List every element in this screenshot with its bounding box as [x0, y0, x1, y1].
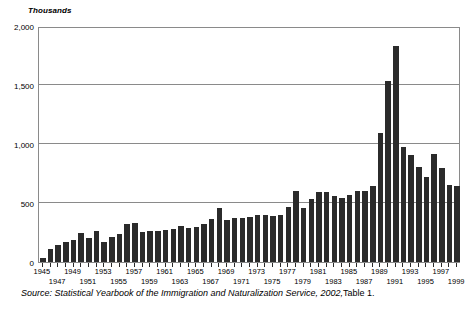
x-axis-tick-label: 1995 — [417, 277, 434, 286]
bar — [301, 208, 307, 262]
x-axis-tick-label: 1991 — [386, 277, 403, 286]
bar — [147, 231, 153, 262]
bar — [378, 133, 384, 262]
bar — [309, 199, 315, 262]
bar — [132, 223, 138, 262]
bar — [171, 229, 177, 263]
bar — [293, 191, 299, 262]
bar — [408, 155, 414, 262]
bar — [401, 147, 407, 262]
bar — [332, 196, 338, 262]
bar — [385, 81, 391, 262]
bar — [40, 258, 46, 262]
bar — [447, 185, 453, 262]
bar — [194, 227, 200, 262]
source-note-plain-part: Table 1. — [343, 288, 375, 298]
x-axis-tick-label: 1997 — [432, 267, 449, 276]
x-axis-tick-label: 1949 — [64, 267, 81, 276]
bar — [124, 224, 130, 262]
bar — [247, 217, 253, 262]
bar — [339, 198, 345, 262]
y-axis-tick-labels: 05001,0001,5002,000 — [0, 27, 34, 263]
bar — [201, 224, 207, 262]
x-axis-tick-label: 1951 — [80, 277, 97, 286]
x-axis-tick-label: 1947 — [49, 277, 66, 286]
x-axis-tick-label: 1965 — [187, 267, 204, 276]
bar — [78, 233, 84, 262]
x-axis-tick-label: 1989 — [371, 267, 388, 276]
x-axis-tick-label: 1987 — [356, 277, 373, 286]
bar — [270, 216, 276, 262]
bar — [416, 167, 422, 262]
bar — [140, 232, 146, 262]
x-axis-tick-label: 1963 — [172, 277, 189, 286]
bar — [155, 231, 161, 262]
bar — [55, 245, 61, 262]
bars-layer — [39, 28, 459, 262]
bar — [232, 218, 238, 262]
bar — [255, 215, 261, 262]
x-axis-tick-labels: 1945194719491951195319551957195919611963… — [38, 266, 462, 288]
bar — [163, 230, 169, 262]
y-axis-tick-label: 1,000 — [14, 141, 34, 150]
bar — [263, 215, 269, 262]
x-axis-tick-label: 1985 — [340, 267, 357, 276]
bar — [454, 186, 460, 262]
immigration-bar-chart-figure: Thousands 05001,0001,5002,000 1945194719… — [0, 0, 469, 309]
bar — [324, 192, 330, 262]
x-axis-tick-label: 1953 — [95, 267, 112, 276]
y-axis-unit-label: Thousands — [28, 6, 72, 15]
x-axis-tick-label: 1977 — [279, 267, 296, 276]
bar — [109, 237, 115, 262]
y-axis-tick-label: 2,000 — [14, 23, 34, 32]
x-axis-tick-label: 1993 — [402, 267, 419, 276]
bar — [278, 215, 284, 262]
x-axis-tick-label: 1959 — [141, 277, 158, 286]
source-note: Source: Statistical Yearbook of the Immi… — [21, 288, 375, 298]
x-axis-tick-label: 1961 — [156, 267, 173, 276]
bar — [86, 238, 92, 262]
x-axis-tick-label: 1957 — [126, 267, 143, 276]
bar — [424, 177, 430, 262]
bar — [240, 218, 246, 262]
bar — [224, 220, 230, 262]
bar — [370, 186, 376, 262]
y-axis-tick-label: 1,500 — [14, 82, 34, 91]
x-axis-tick-label: 1971 — [233, 277, 250, 286]
bar — [63, 242, 69, 262]
bar — [347, 195, 353, 262]
bar — [393, 46, 399, 262]
x-axis-tick-label: 1999 — [448, 277, 465, 286]
x-axis-tick-label: 1973 — [248, 267, 265, 276]
bar — [48, 249, 54, 262]
x-axis-tick-label: 1979 — [294, 277, 311, 286]
x-axis-tick-label: 1945 — [33, 267, 50, 276]
bar — [101, 242, 107, 262]
bar — [94, 231, 100, 262]
x-axis-tick-label: 1955 — [110, 277, 127, 286]
y-axis-tick-label: 500 — [21, 200, 34, 209]
bar — [71, 240, 77, 262]
bar — [316, 192, 322, 262]
bar — [355, 191, 361, 262]
bar — [431, 154, 437, 262]
bar — [217, 208, 223, 262]
bar — [439, 168, 445, 262]
source-note-italic-part: Source: Statistical Yearbook of the Immi… — [21, 288, 343, 298]
x-axis-tick-label: 1967 — [202, 277, 219, 286]
x-axis-tick-label: 1981 — [310, 267, 327, 276]
plot-area — [38, 27, 460, 263]
x-axis-tick-label: 1975 — [264, 277, 281, 286]
x-axis-tick-label: 1969 — [218, 267, 235, 276]
bar — [286, 207, 292, 262]
bar — [186, 228, 192, 262]
x-axis-tick-label: 1983 — [325, 277, 342, 286]
bar — [209, 219, 215, 262]
bar — [362, 191, 368, 262]
bar — [117, 234, 123, 262]
bar — [178, 226, 184, 262]
